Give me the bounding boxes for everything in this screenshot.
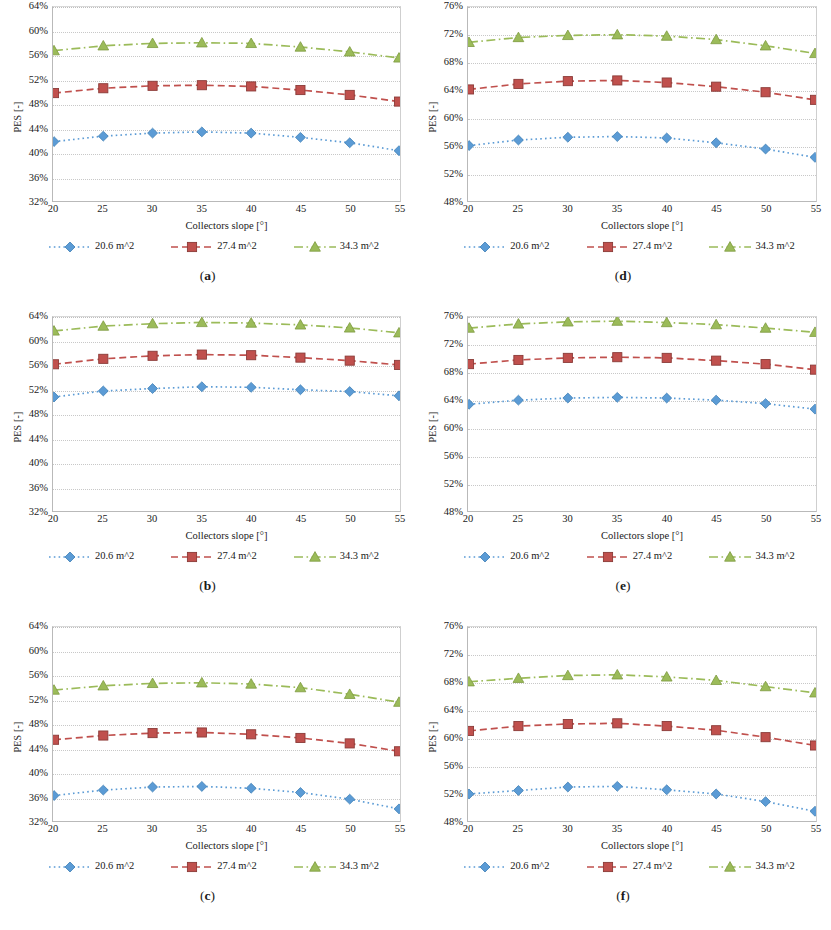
y-axis-tick-label: 52% [29,694,48,705]
x-axis-tick-label: 30 [147,514,158,525]
y-axis-tick-label: 52% [444,169,463,180]
y-axis-tick-label: 44% [29,123,48,134]
x-axis-tick-label: 45 [296,204,307,215]
legend-item: 20.6 m^2 [463,239,549,251]
chart-area-c: PES [-]32%36%40%44%48%52%56%60%64%202530… [0,626,415,848]
legend-label: 34.3 m^2 [340,550,379,561]
y-axis-tick-label: 72% [444,649,463,660]
legend-marker-icon [170,859,214,871]
y-axis-tick-label: 52% [29,74,48,85]
chart-legend-d: 20.6 m^227.4 m^234.3 m^2 [445,236,813,254]
x-axis-tick-label: 55 [395,514,406,525]
legend-item: 20.6 m^2 [48,859,134,871]
panel-caption-a: (a) [0,268,415,284]
y-axis-tick-label: 48% [444,197,463,208]
x-axis-tick-label: 35 [196,824,207,835]
y-axis-tick-label: 52% [444,479,463,490]
legend-item: 34.3 m^2 [293,859,379,871]
y-axis-tick-label: 68% [444,367,463,378]
x-axis-tick-label: 20 [48,514,59,525]
x-axis-tick-label: 45 [711,204,722,215]
legend-marker-icon [586,549,630,561]
y-axis-tick-label: 60% [444,733,463,744]
x-axis-tick-label: 50 [345,204,356,215]
y-axis-tick-label: 76% [444,1,463,12]
chart-area-b: PES [-]32%36%40%44%48%52%56%60%64%202530… [0,316,415,538]
y-axis-tick-label: 32% [29,197,48,208]
legend-marker-icon [48,859,92,871]
x-axis-tick-label: 50 [345,514,356,525]
x-axis-ticks: 2025303540455055 [52,204,401,220]
x-axis-ticks: 2025303540455055 [467,824,817,840]
chart-legend-e: 20.6 m^227.4 m^234.3 m^2 [445,546,813,564]
y-axis-tick-label: 60% [444,113,463,124]
legend-label: 34.3 m^2 [755,860,794,871]
x-axis-tick-label: 20 [463,824,474,835]
legend-item: 34.3 m^2 [293,549,379,561]
x-axis-tick-label: 35 [612,514,623,525]
y-axis-tick-label: 72% [444,339,463,350]
legend-item: 27.4 m^2 [170,239,256,251]
x-axis-tick-label: 25 [512,204,523,215]
plot-region [52,316,401,512]
legend-item: 27.4 m^2 [586,549,672,561]
legend-marker-icon [48,549,92,561]
x-axis-ticks: 2025303540455055 [467,514,817,530]
x-axis-tick-label: 50 [761,824,772,835]
y-axis-ticks: 32%36%40%44%48%52%56%60%64% [14,626,50,822]
x-axis-tick-label: 35 [196,204,207,215]
six-panel-figure: PES [-]32%36%40%44%48%52%56%60%64%202530… [0,0,831,930]
y-axis-tick-label: 40% [29,148,48,159]
x-axis-label: Collectors slope [°] [467,840,817,851]
y-axis-ticks: 48%52%56%60%64%68%72%76% [429,626,465,822]
x-axis-tick-label: 45 [296,824,307,835]
x-axis-tick-label: 40 [246,204,257,215]
legend-item: 20.6 m^2 [48,239,134,251]
y-axis-tick-label: 68% [444,57,463,68]
chart-area-f: PES [-]48%52%56%60%64%68%72%76%202530354… [415,626,831,848]
chart-legend-a: 20.6 m^227.4 m^234.3 m^2 [30,236,397,254]
series-layer-b [53,317,400,511]
x-axis-tick-label: 45 [711,514,722,525]
x-axis-tick-label: 35 [612,204,623,215]
legend-marker-icon [170,239,214,251]
y-axis-tick-label: 56% [444,761,463,772]
panel-caption-b: (b) [0,578,415,594]
y-axis-tick-label: 32% [29,507,48,518]
y-axis-tick-label: 68% [444,677,463,688]
legend-marker-icon [293,859,337,871]
x-axis-tick-label: 20 [48,204,59,215]
x-axis-label: Collectors slope [°] [467,530,817,541]
y-axis-tick-label: 56% [29,670,48,681]
x-axis-tick-label: 30 [147,204,158,215]
x-axis-tick-label: 55 [395,824,406,835]
y-axis-tick-label: 44% [29,743,48,754]
legend-item: 20.6 m^2 [463,549,549,561]
x-axis-tick-label: 40 [246,824,257,835]
y-axis-tick-label: 44% [29,433,48,444]
x-axis-tick-label: 55 [811,204,822,215]
x-axis-tick-label: 40 [662,824,673,835]
legend-label: 34.3 m^2 [340,240,379,251]
x-axis-tick-label: 50 [761,514,772,525]
chart-panel-a: PES [-]32%36%40%44%48%52%56%60%64%202530… [0,0,415,310]
legend-marker-icon [463,859,507,871]
y-axis-tick-label: 56% [444,141,463,152]
x-axis-tick-label: 40 [246,514,257,525]
y-axis-tick-label: 36% [29,792,48,803]
x-axis-tick-label: 55 [395,204,406,215]
y-axis-tick-label: 60% [29,645,48,656]
x-axis-label: Collectors slope [°] [467,220,817,231]
y-axis-tick-label: 60% [444,423,463,434]
x-axis-label: Collectors slope [°] [52,220,401,231]
chart-panel-b: PES [-]32%36%40%44%48%52%56%60%64%202530… [0,310,415,620]
legend-item: 34.3 m^2 [293,239,379,251]
legend-label: 20.6 m^2 [95,240,134,251]
legend-label: 20.6 m^2 [510,550,549,561]
legend-marker-icon [586,239,630,251]
legend-label: 27.4 m^2 [217,860,256,871]
y-axis-tick-label: 32% [29,817,48,828]
x-axis-tick-label: 25 [97,204,108,215]
legend-marker-icon [48,239,92,251]
x-axis-tick-label: 25 [97,514,108,525]
